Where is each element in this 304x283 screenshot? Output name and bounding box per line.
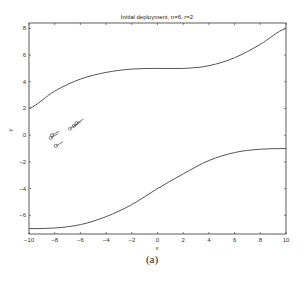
svg-text:4: 4	[23, 79, 27, 85]
chart: Initial deployment, n=6, r=2 −10−8−6−4−2…	[0, 0, 304, 283]
x-axis-label: x	[156, 245, 159, 251]
svg-text:−10: −10	[24, 237, 35, 243]
svg-text:8: 8	[23, 25, 27, 31]
svg-text:10: 10	[283, 237, 290, 243]
svg-text:0: 0	[23, 132, 27, 138]
svg-text:6: 6	[233, 237, 237, 243]
robot-markers	[49, 119, 83, 147]
x-ticks: −10−8−6−4−20246810	[24, 23, 290, 243]
svg-text:−2: −2	[19, 159, 27, 165]
figure-caption: (a)	[0, 253, 304, 265]
svg-text:4: 4	[207, 237, 211, 243]
svg-text:−8: −8	[51, 237, 59, 243]
boundary-lines	[29, 28, 286, 228]
chart-title: Initial deployment, n=6, r=2	[121, 14, 194, 20]
svg-text:−4: −4	[19, 186, 27, 192]
svg-text:−2: −2	[128, 237, 136, 243]
svg-text:6: 6	[23, 52, 27, 58]
svg-text:−4: −4	[103, 237, 111, 243]
svg-text:−6: −6	[77, 237, 85, 243]
svg-text:−6: −6	[19, 212, 27, 218]
y-ticks: −6−4−202468	[19, 25, 286, 218]
svg-text:2: 2	[182, 237, 186, 243]
y-axis-label: y	[7, 129, 13, 132]
svg-text:8: 8	[259, 237, 263, 243]
svg-text:2: 2	[23, 105, 27, 111]
plot-area	[29, 23, 286, 234]
svg-text:0: 0	[156, 237, 160, 243]
